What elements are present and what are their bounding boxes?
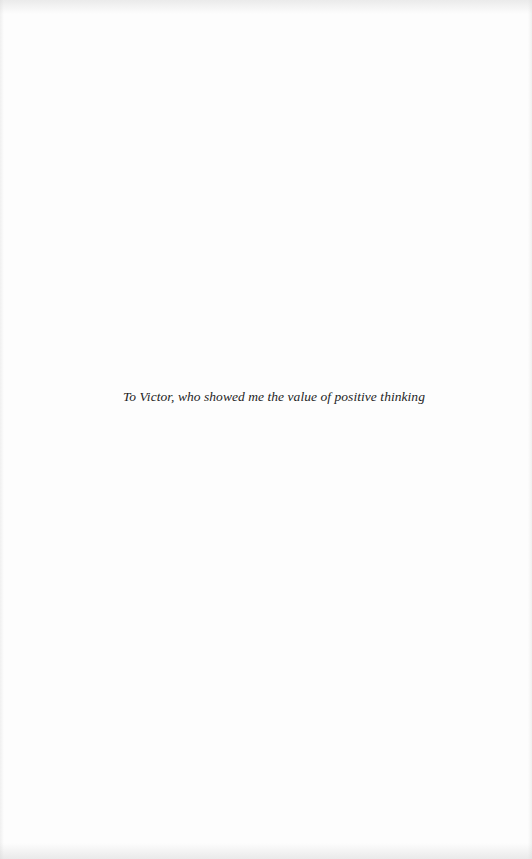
book-page: To Victor, who showed me the value of po…: [0, 0, 532, 859]
scan-edge-left: [0, 0, 4, 859]
scan-edge-top: [0, 0, 532, 14]
dedication-text: To Victor, who showed me the value of po…: [0, 389, 532, 405]
scan-edge-right: [528, 0, 532, 859]
scan-edge-bottom: [0, 843, 532, 859]
